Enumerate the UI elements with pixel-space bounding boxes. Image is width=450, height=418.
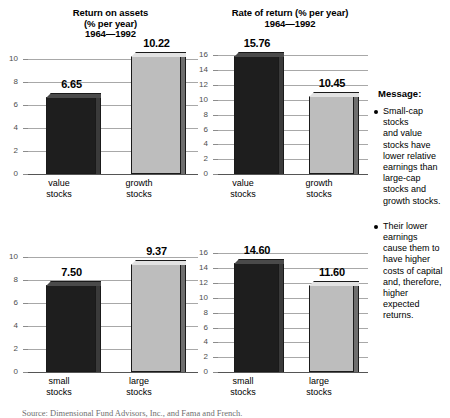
y-tick-label: 2: [194, 353, 208, 361]
bar-value-label: 6.65: [32, 78, 111, 90]
x-tick-label-0: small stocks: [214, 376, 272, 397]
bar-value-label: 15.76: [220, 37, 294, 49]
x-tick-label-0: value stocks: [214, 178, 272, 199]
bar-front-face: [234, 263, 279, 372]
bar-top-face: [131, 52, 186, 57]
y-tick-label: 16: [194, 51, 208, 59]
bar-front-face: [131, 56, 181, 174]
bar-top-face: [309, 281, 359, 286]
y-tick-label: 6: [194, 324, 208, 332]
source-caption: Source: Dimensional Fund Advisors, Inc.,…: [22, 408, 352, 418]
bar-value-stocks: 15.76: [234, 52, 284, 174]
y-tick-mark: [23, 128, 28, 129]
y-tick-mark: [213, 100, 218, 101]
chart-panel-ror-small-large: 024681012141614.6011.60 small stocks lar…: [190, 228, 380, 408]
chart-title: Rate of return (% per year) 1964—1992: [200, 8, 380, 29]
bar-value-stocks: 6.65: [46, 93, 101, 174]
bar-value-label: 9.37: [117, 245, 196, 257]
y-tick-mark: [23, 349, 28, 350]
bar-front-face: [46, 97, 96, 174]
bar-value-label: 14.60: [220, 244, 294, 256]
y-tick-mark: [213, 372, 218, 373]
x-tick-label-0: value stocks: [28, 178, 90, 199]
y-tick-label: 6: [194, 126, 208, 134]
y-tick-label: 0: [194, 170, 208, 178]
bar-top-face: [131, 260, 186, 265]
y-tick-label: 4: [4, 322, 18, 330]
bar-small-stocks: 14.60: [234, 259, 284, 372]
y-tick-mark: [23, 174, 28, 175]
y-tick-mark: [213, 130, 218, 131]
y-tick-mark: [23, 372, 28, 373]
x-tick-label-1: large stocks: [290, 376, 348, 397]
y-tick-label: 2: [4, 147, 18, 155]
y-tick-mark: [213, 357, 218, 358]
plot-area: 02468107.509.37: [28, 246, 198, 372]
bar-growth-stocks: 10.45: [309, 92, 359, 174]
y-tick-label: 0: [4, 368, 18, 376]
y-tick-mark: [213, 159, 218, 160]
bar-growth-stocks: 10.22: [131, 52, 186, 174]
y-tick-label: 10: [194, 96, 208, 104]
y-tick-label: 2: [194, 155, 208, 163]
y-tick-label: 6: [4, 299, 18, 307]
bar-front-face: [234, 56, 279, 174]
y-tick-label: 8: [4, 78, 18, 86]
y-tick-label: 4: [194, 140, 208, 148]
y-tick-mark: [213, 253, 218, 254]
gridline: [28, 257, 198, 258]
bar-front-face: [46, 285, 96, 372]
y-tick-label: 4: [194, 338, 208, 346]
bar-front-face: [131, 264, 181, 372]
y-tick-mark: [213, 313, 218, 314]
y-tick-mark: [23, 59, 28, 60]
bar-value-label: 10.22: [117, 37, 196, 49]
y-tick-mark: [213, 144, 218, 145]
y-tick-mark: [23, 326, 28, 327]
bar-front-face: [309, 96, 354, 174]
bar-value-label: 11.60: [295, 266, 369, 278]
bar-value-label: 10.45: [295, 77, 369, 89]
x-tick-label-1: large stocks: [108, 376, 170, 397]
y-tick-label: 14: [194, 264, 208, 272]
message-bullet-2: Their lower earnings cause them to have …: [374, 221, 448, 322]
chart-title: Return on assets (% per year) 1964—1992: [16, 8, 205, 40]
chart-panel-ror-value-growth: Rate of return (% per year) 1964—1992 02…: [190, 8, 380, 203]
y-tick-mark: [213, 85, 218, 86]
bar-large-stocks: 11.60: [309, 281, 359, 372]
y-tick-mark: [213, 55, 218, 56]
message-bullet-1: Small-cap stocks and value stocks have l…: [374, 106, 448, 207]
bar-top-face: [234, 52, 284, 57]
y-tick-label: 12: [194, 81, 208, 89]
plot-area: 024681012141615.7610.45: [218, 48, 368, 174]
bar-value-label: 7.50: [32, 266, 111, 278]
chart-panel-roa-small-large: 02468107.509.37 small stocks large stock…: [0, 228, 205, 408]
y-tick-label: 14: [194, 66, 208, 74]
y-tick-mark: [213, 342, 218, 343]
chart-panel-roa-value-growth: Return on assets (% per year) 1964—1992 …: [0, 8, 205, 203]
y-tick-mark: [23, 82, 28, 83]
y-tick-label: 10: [194, 294, 208, 302]
bar-top-face: [46, 281, 101, 286]
y-tick-mark: [213, 70, 218, 71]
bar-large-stocks: 9.37: [131, 260, 186, 372]
plot-area: 02468106.6510.22: [28, 48, 198, 174]
y-tick-label: 2: [4, 345, 18, 353]
y-tick-mark: [213, 115, 218, 116]
plot-area: 024681012141614.6011.60: [218, 246, 368, 372]
message-panel: Message: Small-cap stocks and value stoc…: [374, 88, 448, 334]
message-bullet-text: Their lower earnings cause them to have …: [383, 221, 448, 322]
y-tick-mark: [213, 268, 218, 269]
y-tick-mark: [23, 280, 28, 281]
y-tick-mark: [23, 257, 28, 258]
y-tick-label: 16: [194, 249, 208, 257]
y-tick-mark: [213, 298, 218, 299]
y-tick-mark: [23, 151, 28, 152]
message-bullet-text: Small-cap stocks and value stocks have l…: [383, 106, 448, 207]
bar-top-face: [309, 92, 359, 97]
y-tick-mark: [213, 283, 218, 284]
y-tick-label: 0: [4, 170, 18, 178]
y-tick-label: 12: [194, 279, 208, 287]
bullet-dot-icon: [374, 110, 378, 114]
bar-top-face: [234, 259, 284, 264]
